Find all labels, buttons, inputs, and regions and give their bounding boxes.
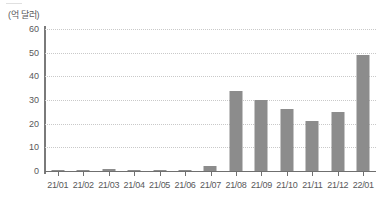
- y-axis-unit-label: (억 달러): [8, 8, 39, 21]
- bar-slot: [223, 29, 248, 171]
- bar-slot: [198, 29, 223, 171]
- bar-21-11: [306, 121, 319, 171]
- bar-slot: [121, 29, 146, 171]
- x-tick-label-21-10: 21/10: [276, 180, 297, 190]
- y-tick-label-60: 60: [29, 24, 39, 34]
- x-tick: [363, 171, 364, 176]
- x-tick-label-21-07: 21/07: [200, 180, 221, 190]
- x-tick-label-21-11: 21/11: [302, 180, 322, 190]
- bar-21-09: [255, 100, 268, 171]
- y-tick-label-20: 20: [29, 119, 39, 129]
- x-tick: [261, 171, 262, 176]
- x-tick: [58, 171, 59, 176]
- x-tick-label-21-05: 21/05: [149, 180, 170, 190]
- bar-slot: [300, 29, 325, 171]
- bar-slot: [70, 29, 95, 171]
- x-tick-label-21-01: 21/01: [47, 180, 68, 190]
- bar-series: [45, 29, 376, 171]
- x-tick-label-21-02: 21/02: [73, 180, 94, 190]
- x-tick: [109, 171, 110, 176]
- bar-slot: [274, 29, 299, 171]
- x-tick: [338, 171, 339, 176]
- bar-21-08: [229, 91, 242, 171]
- bar-slot: [45, 29, 70, 171]
- x-axis-ticks: [45, 171, 376, 176]
- bar-21-12: [331, 112, 344, 171]
- x-tick-label-22-01: 22/01: [353, 180, 374, 190]
- x-tick-label-21-09: 21/09: [251, 180, 272, 190]
- y-tick-label-50: 50: [29, 48, 39, 58]
- x-tick-label-21-12: 21/12: [327, 180, 348, 190]
- x-tick-label-21-06: 21/06: [175, 180, 196, 190]
- x-tick: [287, 171, 288, 176]
- bar-21-10: [280, 109, 293, 171]
- plot-area: [45, 29, 376, 171]
- x-tick-label-21-08: 21/08: [225, 180, 246, 190]
- bar-22-01: [357, 55, 370, 171]
- x-tick: [134, 171, 135, 176]
- bar-slot: [147, 29, 172, 171]
- y-tick-label-30: 30: [29, 95, 39, 105]
- bar-slot: [325, 29, 350, 171]
- x-axis-tick-labels: 21/0121/0221/0321/0421/0521/0621/0721/08…: [45, 180, 376, 198]
- x-tick: [83, 171, 84, 176]
- crop-artifact: [6, 0, 22, 4]
- x-tick: [236, 171, 237, 176]
- bar-slot: [351, 29, 376, 171]
- bar-slot: [96, 29, 121, 171]
- bar-slot: [249, 29, 274, 171]
- x-tick-label-21-03: 21/03: [98, 180, 119, 190]
- x-tick: [211, 171, 212, 176]
- y-tick-label-40: 40: [29, 71, 39, 81]
- x-tick: [185, 171, 186, 176]
- x-tick: [312, 171, 313, 176]
- x-tick: [160, 171, 161, 176]
- y-tick-label-0: 0: [34, 166, 39, 176]
- y-tick-label-10: 10: [29, 142, 39, 152]
- y-axis-tick-labels: 0102030405060: [14, 29, 39, 171]
- bar-chart: (억 달러) 0102030405060 21/0121/0221/0321/0…: [0, 0, 383, 203]
- bar-slot: [172, 29, 197, 171]
- x-tick-label-21-04: 21/04: [124, 180, 145, 190]
